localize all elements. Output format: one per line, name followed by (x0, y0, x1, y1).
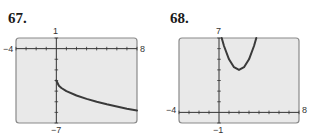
plot67-xmax-label: 8 (140, 45, 145, 54)
plot68-xmin-label: −4 (166, 106, 176, 115)
graphing-calculator-plots (0, 0, 310, 139)
plot68-ymax-label: 7 (216, 27, 221, 36)
plot67-viewing-window (16, 38, 137, 123)
plot67-ymax-label: 1 (53, 27, 58, 36)
plot67-xmin-label: −4 (3, 45, 13, 54)
plot68-viewing-window (179, 38, 299, 123)
plot68-ymin-label: −1 (213, 126, 223, 135)
plot67-ymin-label: −7 (51, 126, 61, 135)
plot68-xmax-label: 8 (302, 106, 307, 115)
